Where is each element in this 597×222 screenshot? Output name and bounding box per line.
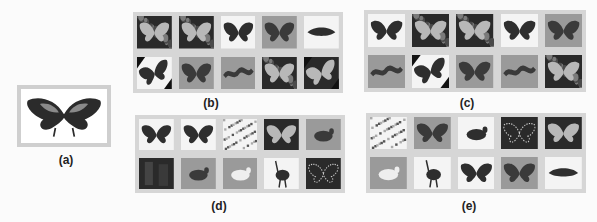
butterfly-icon bbox=[368, 14, 405, 47]
butterfly-on-hand-icon bbox=[264, 119, 299, 150]
result-thumbnail bbox=[545, 117, 582, 149]
panel-label-d: (d) bbox=[211, 199, 226, 213]
result-thumbnail bbox=[545, 14, 582, 47]
bird-pigeon-icon bbox=[306, 119, 341, 150]
result-thumbnail bbox=[181, 158, 216, 189]
result-thumbnail bbox=[370, 157, 407, 189]
butterfly-closeup-icon bbox=[262, 16, 297, 49]
result-thumbnail bbox=[179, 16, 214, 49]
caterpillar-icon bbox=[221, 57, 256, 90]
result-thumbnail bbox=[223, 119, 258, 150]
butterfly-icon bbox=[139, 119, 174, 150]
result-thumbnail bbox=[501, 157, 538, 189]
caterpillar-icon bbox=[501, 55, 538, 88]
result-thumbnail bbox=[501, 14, 538, 47]
butterfly-foliage-icon bbox=[179, 16, 214, 49]
panel-label-a: (a) bbox=[59, 153, 74, 167]
butterfly-icon bbox=[21, 89, 107, 143]
results-panel-d bbox=[135, 115, 345, 193]
result-thumbnail bbox=[304, 16, 339, 49]
butterfly-flowers-icon bbox=[137, 16, 172, 49]
butterfly-icon bbox=[221, 16, 256, 49]
result-thumbnail bbox=[370, 117, 407, 149]
texture-noise-icon bbox=[370, 117, 407, 149]
butterfly-on-leaf-icon bbox=[262, 57, 297, 90]
bird-in-grass-icon bbox=[181, 158, 216, 189]
butterfly-icon bbox=[181, 119, 216, 150]
result-thumbnail bbox=[458, 117, 495, 149]
butterfly-outline-icon bbox=[501, 117, 538, 149]
results-panel-b bbox=[133, 12, 343, 93]
thumbnail-grid bbox=[139, 119, 341, 189]
thumbnail-grid bbox=[137, 16, 339, 89]
moth-icon bbox=[304, 16, 339, 49]
result-thumbnail bbox=[221, 16, 256, 49]
result-thumbnail bbox=[545, 157, 582, 189]
butterfly-icon bbox=[456, 55, 493, 88]
result-thumbnail bbox=[179, 57, 214, 90]
panel-label-e: (e) bbox=[462, 199, 477, 213]
result-thumbnail bbox=[458, 157, 495, 189]
result-thumbnail bbox=[456, 55, 493, 88]
butterfly-icon bbox=[179, 57, 214, 90]
result-thumbnail bbox=[223, 158, 258, 189]
result-thumbnail bbox=[139, 158, 174, 189]
result-thumbnail bbox=[414, 117, 451, 149]
thumbnail-grid bbox=[368, 14, 582, 88]
result-thumbnail bbox=[137, 16, 172, 49]
butterfly-closeup-icon bbox=[545, 14, 582, 47]
result-thumbnail bbox=[306, 119, 341, 150]
butterfly-on-leaf-icon bbox=[545, 55, 582, 88]
result-thumbnail bbox=[368, 14, 405, 47]
results-panel-e bbox=[366, 113, 586, 193]
panel-label-c: (c) bbox=[460, 96, 475, 110]
result-thumbnail bbox=[501, 55, 538, 88]
bird-dove-icon bbox=[370, 157, 407, 189]
panel-label-b: (b) bbox=[203, 96, 218, 110]
butterfly-on-hand-icon bbox=[414, 117, 451, 149]
result-thumbnail bbox=[545, 55, 582, 88]
dark-scene-icon bbox=[139, 158, 174, 189]
result-thumbnail bbox=[368, 55, 405, 88]
butterfly-icon bbox=[458, 157, 495, 189]
result-thumbnail bbox=[181, 119, 216, 150]
result-thumbnail bbox=[264, 119, 299, 150]
butterfly-flowers-icon bbox=[412, 14, 449, 47]
result-thumbnail bbox=[221, 57, 256, 90]
butterfly-foliage-icon bbox=[456, 14, 493, 47]
butterfly-outline-icon bbox=[306, 158, 341, 189]
result-thumbnail bbox=[139, 119, 174, 150]
bird-emu-icon bbox=[264, 158, 299, 189]
result-thumbnail bbox=[306, 158, 341, 189]
query-image-frame bbox=[17, 85, 111, 147]
butterfly-dark-icon bbox=[545, 117, 582, 149]
butterfly-rotated-icon bbox=[304, 57, 339, 90]
bird-pigeon-icon bbox=[458, 117, 495, 149]
butterfly-icon bbox=[501, 14, 538, 47]
caterpillar-icon bbox=[368, 55, 405, 88]
butterfly-rotated-icon bbox=[412, 55, 449, 88]
bird-emu-icon bbox=[414, 157, 451, 189]
result-thumbnail bbox=[262, 57, 297, 90]
results-panel-c bbox=[364, 10, 586, 92]
result-thumbnail bbox=[304, 57, 339, 90]
butterfly-rotated-icon bbox=[137, 57, 172, 90]
result-thumbnail bbox=[412, 14, 449, 47]
result-thumbnail bbox=[264, 158, 299, 189]
butterfly-closeup-icon bbox=[501, 157, 538, 189]
result-thumbnail bbox=[501, 117, 538, 149]
result-thumbnail bbox=[412, 55, 449, 88]
texture-noise-icon bbox=[223, 119, 258, 150]
result-thumbnail bbox=[137, 57, 172, 90]
result-thumbnail bbox=[414, 157, 451, 189]
result-thumbnail bbox=[456, 14, 493, 47]
thumbnail-grid bbox=[370, 117, 582, 189]
query-image bbox=[21, 89, 107, 143]
moth-icon bbox=[545, 157, 582, 189]
bird-dove-icon bbox=[223, 158, 258, 189]
result-thumbnail bbox=[262, 16, 297, 49]
